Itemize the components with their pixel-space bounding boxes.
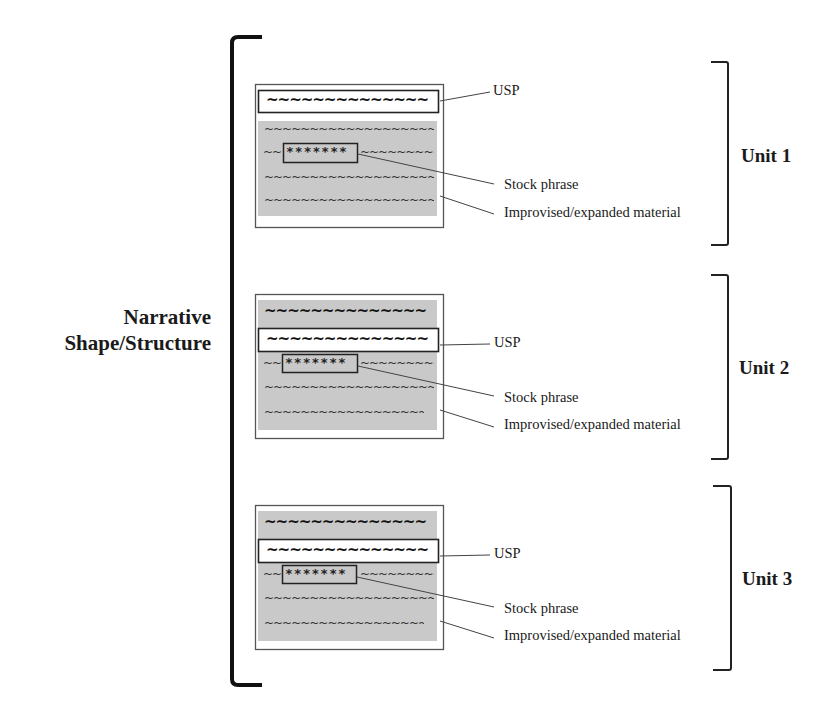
stock-phrase-label: Stock phrase xyxy=(504,389,579,406)
stock-phrase-text: ******* xyxy=(285,566,347,581)
label-line-2: Shape/Structure xyxy=(64,330,211,356)
material-line: ~~ xyxy=(263,567,283,581)
stock-phrase-label: Stock phrase xyxy=(504,600,579,617)
unit-1-bracket xyxy=(711,62,728,245)
stock-phrase-label: Stock phrase xyxy=(504,176,579,193)
usp-label: USP xyxy=(494,334,521,351)
unit-2-bracket xyxy=(711,275,728,459)
stock-phrase-text: ******* xyxy=(285,355,347,370)
material-line: ~~~~~~~~~~~~~~~~~~~~~ xyxy=(264,591,434,605)
material-line: ~~~~~~~~~~~~~~~~~~~~~ xyxy=(264,122,434,136)
material-line: ~~~~~~~~~~ xyxy=(360,356,434,370)
usp-label: USP xyxy=(494,545,521,562)
label-line-1: Narrative xyxy=(64,304,211,330)
improvised-label: Improvised/expanded material xyxy=(504,204,681,221)
material-line: ~~~~~~~~~~~~~~ xyxy=(264,513,434,531)
unit-3-bracket xyxy=(713,486,731,670)
material-line: ~~ xyxy=(263,356,283,370)
material-line: ~~~~~~~~~~~~~~~~~~~~~ xyxy=(264,405,424,419)
usp-text: ~~~~~~~~~~~~~~ xyxy=(266,541,434,559)
stock-phrase-text: ******* xyxy=(286,144,348,159)
improvised-label: Improvised/expanded material xyxy=(504,416,681,433)
usp-text: ~~~~~~~~~~~~~~ xyxy=(266,330,434,348)
material-line: ~~~~~~~~~~~~~~~~~~~~~ xyxy=(264,170,434,184)
improvised-label: Improvised/expanded material xyxy=(504,627,681,644)
usp-text: ~~~~~~~~~~~~~~ xyxy=(266,91,434,109)
material-line: ~~~~~~~~~~ xyxy=(360,145,434,159)
unit-3-label: Unit 3 xyxy=(742,568,792,590)
material-line: ~~~~~~~~~~~~~~~~~~~~~ xyxy=(264,193,434,207)
material-line: ~~~~~~~~~~ xyxy=(360,567,434,581)
material-line: ~~~~~~~~~~~~~~~~~~~~~ xyxy=(264,380,434,394)
narrative-structure-label: Narrative Shape/Structure xyxy=(64,304,211,356)
material-line: ~~~~~~~~~~~~~~~~~~~~~ xyxy=(264,616,424,630)
material-line: ~~ xyxy=(263,145,283,159)
unit-1-label: Unit 1 xyxy=(741,145,791,167)
material-line: ~~~~~~~~~~~~~~ xyxy=(264,302,434,320)
narrative-structure-diagram: Narrative Shape/Structure ~~~~~~~~~~~~~~… xyxy=(0,0,835,716)
usp-label: USP xyxy=(493,82,520,99)
unit-2-label: Unit 2 xyxy=(739,357,789,379)
